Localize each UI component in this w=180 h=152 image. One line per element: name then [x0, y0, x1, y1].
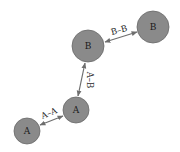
edge-a-b: A–B: [78, 63, 95, 96]
edge-label-a-b: A–B: [85, 71, 95, 89]
edge-b-b: B–B: [105, 23, 137, 42]
edge-line-a-b: [78, 63, 85, 96]
graph-diagram: A–A A–B B–B A A B B: [0, 0, 180, 152]
edge-label-b-b: B–B: [110, 23, 129, 37]
node-a2: A: [63, 97, 89, 123]
node-b2: B: [137, 11, 169, 43]
node-label-b2: B: [150, 22, 157, 32]
node-label-a1: A: [23, 126, 31, 136]
node-label-a2: A: [72, 105, 80, 115]
node-label-b1: B: [85, 41, 92, 51]
node-a1: A: [14, 118, 40, 144]
edge-a-a: A–A: [39, 105, 63, 125]
node-b1: B: [72, 30, 104, 62]
